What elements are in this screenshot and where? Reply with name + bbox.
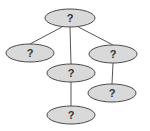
- node-label: ?: [109, 87, 116, 99]
- edge-right-to-right-child: [112, 63, 113, 84]
- tree-node-root: ?: [45, 9, 95, 27]
- node-label: ?: [27, 47, 34, 59]
- node-label: ?: [68, 67, 75, 79]
- node-label: ?: [68, 109, 75, 121]
- tree-node-right-child: ?: [88, 84, 136, 102]
- node-label: ?: [110, 48, 117, 60]
- tree-node-middle: ?: [47, 64, 95, 82]
- edge-root-to-left: [30, 27, 62, 44]
- tree-nodes: ??????: [6, 9, 137, 124]
- node-label: ?: [67, 12, 74, 24]
- tree-diagram: ??????: [0, 0, 150, 131]
- tree-node-bottom: ?: [47, 106, 95, 124]
- edge-root-to-middle: [70, 27, 71, 64]
- edge-root-to-right: [78, 27, 113, 45]
- tree-node-left: ?: [6, 44, 54, 62]
- tree-node-right: ?: [89, 45, 137, 63]
